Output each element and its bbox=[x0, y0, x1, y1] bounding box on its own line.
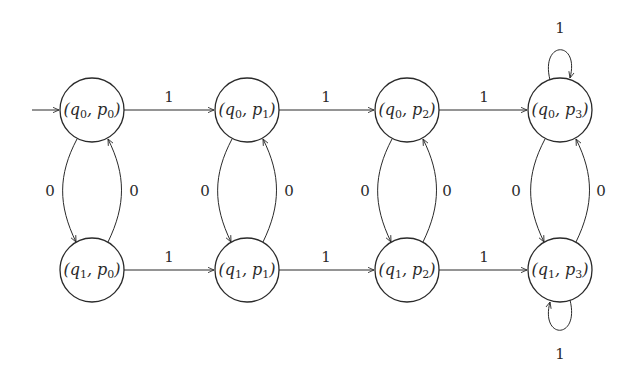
edge-s01-s02: 1 bbox=[279, 88, 374, 110]
edge-s03-s13: 0 bbox=[511, 139, 545, 242]
edge-label: 0 bbox=[200, 182, 210, 200]
edge-s12-s02: 0 bbox=[423, 139, 452, 242]
edge-label: 1 bbox=[321, 88, 331, 106]
edge-label: 1 bbox=[555, 345, 565, 363]
state-q0-p3: (q0, p3) bbox=[528, 78, 592, 142]
edge-label: 1 bbox=[164, 248, 174, 266]
state-q1-p1: (q1, p1) bbox=[215, 238, 279, 302]
edge-s00-s10: 0 bbox=[45, 139, 77, 242]
state-q1-p2: (q1, p2) bbox=[375, 238, 439, 302]
state-q0-p1: (q0, p1) bbox=[215, 78, 279, 142]
state-q0-p2: (q0, p2) bbox=[375, 78, 439, 142]
edge-label: 1 bbox=[164, 88, 174, 106]
edge-s01-s11: 0 bbox=[200, 139, 232, 242]
edge-s02-s03: 1 bbox=[439, 88, 527, 110]
edge-label: 0 bbox=[360, 182, 370, 200]
edge-label: 1 bbox=[321, 248, 331, 266]
edge-s11-s12: 1 bbox=[279, 248, 374, 270]
edge-label: 0 bbox=[45, 182, 55, 200]
state-q0-p0: (q0, p0) bbox=[60, 78, 124, 142]
self-loop-s13: 1 bbox=[548, 300, 571, 363]
edge-label: 0 bbox=[442, 182, 452, 200]
edge-label: 0 bbox=[511, 182, 521, 200]
edge-s10-s11: 1 bbox=[124, 248, 214, 270]
edge-s00-s01: 1 bbox=[124, 88, 214, 110]
edge-s11-s01: 0 bbox=[263, 139, 294, 242]
state-q1-p0: (q1, p0) bbox=[60, 238, 124, 302]
edge-label: 0 bbox=[129, 182, 139, 200]
edge-s02-s12: 0 bbox=[360, 139, 392, 242]
edge-label: 1 bbox=[479, 88, 489, 106]
edge-s13-s03: 0 bbox=[576, 139, 606, 242]
edge-label: 1 bbox=[555, 19, 565, 37]
state-q1-p3: (q1, p3) bbox=[528, 238, 592, 302]
automaton-diagram: 1 1 1 1 1 1 0 0 0 0 0 bbox=[0, 0, 629, 375]
self-loop-s03: 1 bbox=[548, 19, 571, 80]
edge-s10-s00: 0 bbox=[108, 139, 139, 242]
edge-label: 1 bbox=[479, 248, 489, 266]
edge-label: 0 bbox=[284, 182, 294, 200]
edge-s12-s13: 1 bbox=[439, 248, 527, 270]
edge-label: 0 bbox=[596, 182, 606, 200]
